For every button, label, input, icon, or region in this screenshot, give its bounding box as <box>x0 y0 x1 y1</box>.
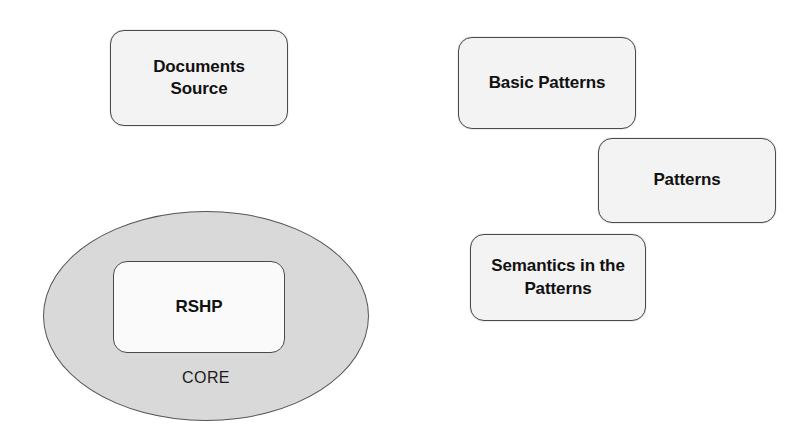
core-ellipse-label: CORE <box>43 369 369 387</box>
node-rshp-label: RSHP <box>175 297 222 317</box>
core-group[interactable]: RSHP CORE <box>43 211 369 421</box>
node-basic-patterns[interactable]: Basic Patterns <box>458 37 636 129</box>
node-patterns-label: Patterns <box>609 169 765 191</box>
node-patterns[interactable]: Patterns <box>598 138 776 223</box>
node-documents-source[interactable]: Documents Source <box>110 30 288 126</box>
node-semantics-in-the-patterns[interactable]: Semantics in the Patterns <box>470 234 646 321</box>
node-basic-patterns-label: Basic Patterns <box>469 72 625 94</box>
node-semantics-line2: Patterns <box>524 279 591 298</box>
diagram-canvas: Documents Source Basic Patterns Patterns… <box>0 0 800 432</box>
node-semantics-in-the-patterns-label: Semantics in the Patterns <box>481 255 635 300</box>
node-rshp[interactable]: RSHP <box>113 261 285 353</box>
node-documents-source-line1: Documents <box>153 57 245 76</box>
node-semantics-line1: Semantics in the <box>491 256 625 275</box>
node-documents-source-label: Documents Source <box>121 56 277 101</box>
node-documents-source-line2: Source <box>170 79 227 98</box>
